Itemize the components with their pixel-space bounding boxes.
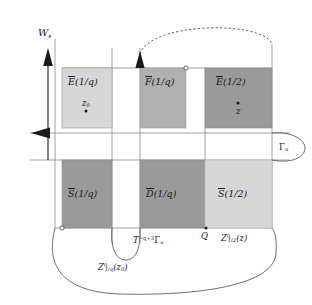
rect-label-F-1-q: F(1/q) [145,76,174,87]
rect-label-arg: (1/2) [225,188,248,199]
left-arrowhead [31,128,50,139]
rect-label-base: E [68,76,75,87]
dot-z [237,102,240,105]
Z-arg: (z [113,262,121,272]
point-label-base: z [236,106,240,116]
gamma-u-lobe [272,133,305,161]
dot-z0 [85,110,88,113]
Z-arg: (z [236,233,244,243]
point-label-base: Q [201,231,208,241]
rect-label-arg: (1/q) [75,76,98,87]
curve-label-Z-12-z: Z01/2(z) [221,233,247,243]
curve-label-T-gamma-u: T−q+3Γu [133,235,164,245]
Z-sub: 1/q [105,266,114,272]
rect-label-arg: (1/q) [75,188,98,199]
rect-label-base: F [145,76,152,87]
Z-sub: 1/2 [228,237,236,243]
axis-label-base: W [38,27,48,38]
gamma-sub: u [285,146,288,152]
point-label-sub: 0 [86,102,89,108]
Z-argend: ) [124,262,127,272]
point-label-Q: Q [201,231,208,241]
rect-label-S-1-2: S(1/2) [218,188,247,199]
rect-label-base: E [216,76,223,87]
axis-label-Ws: Ws [38,27,51,39]
rect-label-S-1-q: S(1/q) [68,188,97,199]
vertical-axis-arrowhead [43,48,53,66]
diagram-svg [0,0,312,305]
rect-label-D-1-q: D(1/q) [146,188,176,199]
figure-canvas: Ws E(1/q) F(1/q) E(1/2) S(1/q) D(1/q) S(… [0,0,312,305]
rect-label-base: D [146,188,154,199]
dot-Q [205,227,208,230]
gamma-sub: u [160,239,163,245]
dashed-arc-top [140,28,272,54]
open-circle-top-right [184,66,188,70]
rect-label-arg: (1/q) [152,76,175,87]
rect-label-base: S [68,188,75,199]
axis-label-sub: s [48,32,51,39]
rect-label-arg: (1/q) [154,188,177,199]
rect-label-base: S [218,188,225,199]
curve-label-Z-1q-z0: Z01/q(z0) [98,262,128,272]
inner-up-arrowhead [135,51,144,68]
rect-label-arg: (1/2) [223,76,246,87]
Z-argend: ) [244,233,247,243]
point-label-z: z [236,106,240,116]
open-circle-bottom-left [60,226,64,230]
curve-label-gamma-u: Γu [279,142,288,152]
point-label-z0: z0 [82,98,90,108]
rect-label-E-1-2: E(1/2) [216,76,246,87]
T-exponent: −q+3 [139,235,155,241]
rect-label-E-1-q: E(1/q) [68,76,98,87]
